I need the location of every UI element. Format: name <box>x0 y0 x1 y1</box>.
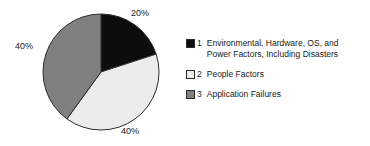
legend-label-2: People Factors <box>207 69 264 80</box>
legend-label-3: Application Failures <box>207 89 281 100</box>
legend-index-1: 1 <box>197 38 202 49</box>
legend-index-2: 2 <box>197 69 202 80</box>
legend-swatch-icon-3 <box>186 90 195 99</box>
pie-slice-group <box>43 14 159 130</box>
legend-swatch-icon-2 <box>186 70 195 79</box>
legend-item-people-factors: 2 People Factors <box>186 69 368 80</box>
slice-label-3: 40% <box>15 42 33 51</box>
slice-label-2: 40% <box>121 127 139 136</box>
pie-svg <box>0 0 185 146</box>
legend-index-3: 3 <box>197 89 202 100</box>
chart-legend: 1 Environmental, Hardware, OS, and Power… <box>186 38 368 100</box>
pie-chart-figure: 20% 40% 40% 1 Environmental, Hardware, O… <box>0 0 370 146</box>
pie-plot-area: 20% 40% 40% <box>0 0 185 146</box>
slice-label-1: 20% <box>131 9 149 18</box>
legend-item-environmental: 1 Environmental, Hardware, OS, and Power… <box>186 38 368 60</box>
legend-item-application-failures: 3 Application Failures <box>186 89 368 100</box>
legend-swatch-icon-1 <box>186 39 195 48</box>
legend-label-1: Environmental, Hardware, OS, and Power F… <box>207 38 339 60</box>
